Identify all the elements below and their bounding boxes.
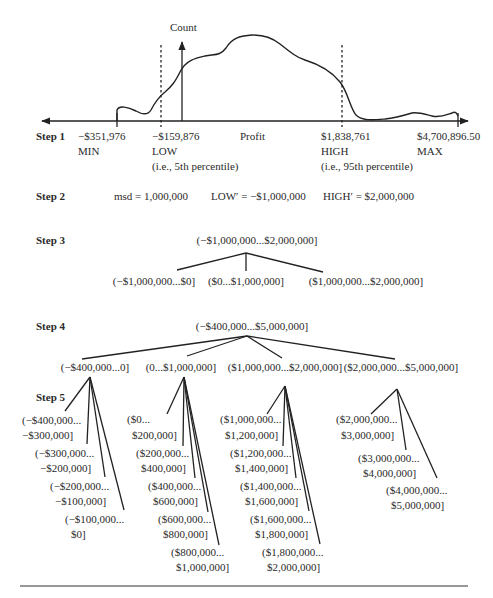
step5-edge (371, 389, 397, 414)
step5-node: $4,000,000] (363, 467, 416, 479)
step5-node: ($0... (127, 413, 150, 426)
step4-child-node: ($2,000,000...$5,000,000] (344, 361, 459, 374)
high-value: $1,838,761 (321, 130, 371, 142)
min-value: −$351,976 (78, 130, 126, 142)
step5-edge (267, 386, 285, 414)
step3-child-node: ($0...$1,000,000] (208, 275, 284, 288)
step5-node: −$200,000] (40, 462, 91, 474)
high-note: (i.e., 95th percentile) (321, 160, 413, 173)
low-value: −$159,876 (152, 130, 200, 142)
step5-edge (283, 386, 285, 446)
step4-child-node: ($1,000,000...$2,000,000] (228, 361, 343, 374)
step5-edge (183, 377, 184, 446)
step4-root-node: (−$400,000...$5,000,000] (196, 320, 309, 333)
low-label: LOW (152, 145, 178, 157)
step4-edge (82, 336, 247, 359)
concept-hierarchy-diagram: Count Step 1 −$351,976 MIN −$159,876 LOW… (0, 0, 493, 598)
step3-root-node: (−$1,000,000...$2,000,000] (197, 234, 318, 247)
msd-value: msd = 1,000,000 (114, 190, 189, 202)
step5-node: ($600,000... (158, 513, 211, 526)
step5-node: $800,000] (163, 528, 208, 540)
step5-node: −$100,000] (55, 495, 106, 507)
step5-node: $1,800,000] (255, 528, 308, 540)
step5-label: Step 5 (36, 391, 66, 403)
step5-partition: Step 5 (−$400,000... −$300,000] (−$300,0… (22, 377, 448, 573)
step3-edge (177, 253, 246, 270)
step5-node: ($1,200,000... (230, 447, 292, 460)
step4-child-node: (0...$1,000,000] (146, 361, 217, 374)
step5-node: $1,000,000] (176, 561, 229, 573)
step5-node: $600,000] (153, 495, 198, 507)
high-prime-value: HIGH′ = $2,000,000 (323, 190, 415, 202)
distribution-curve (117, 35, 458, 121)
step5-node: ($1,400,000... (240, 480, 302, 493)
step3-edge (246, 253, 323, 272)
step5-edge (65, 377, 90, 411)
high-label: HIGH (321, 145, 349, 157)
step4-edge (247, 336, 395, 359)
step5-node: $3,000,000] (341, 429, 394, 441)
step1-distribution: Count Step 1 −$351,976 MIN −$159,876 LOW… (36, 21, 481, 173)
step3-partition: Step 3 (−$1,000,000...$2,000,000] (−$1,0… (36, 234, 423, 288)
step5-node: ($800,000... (171, 546, 224, 559)
step5-node: ($1,600,000... (250, 513, 312, 526)
step5-node: $0] (71, 528, 86, 540)
step2-rounding: Step 2 msd = 1,000,000 LOW′ = −$1,000,00… (36, 190, 415, 202)
max-label: MAX (417, 145, 443, 157)
step5-node: ($1,000,000... (220, 413, 282, 426)
step5-node: ($1,800,000... (262, 546, 324, 559)
step5-node: ($200,000... (136, 447, 189, 460)
step4-partition: Step 4 (−$400,000...$5,000,000] (−$400,0… (36, 320, 458, 374)
step5-node: $200,000] (132, 429, 177, 441)
step5-node: (−$300,000... (35, 447, 95, 460)
step3-child-node: ($1,000,000...$2,000,000] (309, 275, 424, 288)
step4-label: Step 4 (36, 320, 66, 332)
step3-label: Step 3 (36, 234, 66, 246)
low-note: (i.e., 5th percentile) (152, 160, 239, 173)
low-prime-value: LOW′ = −$1,000,000 (211, 190, 306, 202)
step5-node: $2,000,000] (267, 561, 320, 573)
min-label: MIN (78, 145, 99, 157)
step5-edge (167, 377, 184, 414)
step5-node: $1,600,000] (245, 495, 298, 507)
step5-node: (−$100,000... (65, 513, 125, 526)
step2-label: Step 2 (36, 190, 66, 202)
max-value: $4,700,896.50 (417, 130, 481, 142)
step5-node: $1,200,000] (225, 429, 278, 441)
step5-edge (87, 377, 90, 444)
step5-node: $5,000,000] (391, 499, 444, 511)
step5-node: $1,400,000] (235, 462, 288, 474)
step5-node: (−$400,000... (22, 414, 82, 427)
step3-child-node: (−$1,000,000...$0] (113, 275, 195, 288)
step5-node: ($4,000,000... (386, 484, 448, 497)
step5-node: (−$200,000... (50, 480, 110, 493)
step1-label: Step 1 (36, 130, 65, 142)
count-axis-label: Count (170, 21, 197, 33)
step5-node: ($3,000,000... (358, 452, 420, 465)
step5-node: ($2,000,000... (336, 413, 398, 426)
step5-node: ($400,000... (148, 480, 201, 493)
step4-child-node: (−$400,000...0] (61, 361, 130, 374)
step4-edge (187, 336, 247, 356)
step5-node: −$300,000] (22, 429, 73, 441)
profit-axis-label: Profit (240, 130, 265, 142)
step5-node: $400,000] (141, 462, 186, 474)
